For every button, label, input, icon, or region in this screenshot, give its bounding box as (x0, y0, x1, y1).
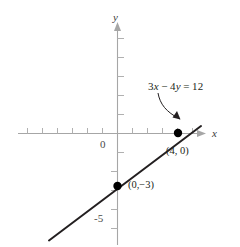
equation-var-y: y (176, 80, 181, 92)
equation-var-x: x (154, 80, 159, 92)
graph-figure: y x 0 -5 (4, 0) (0,−3) 3x − 4y = 12 (0, 0, 240, 247)
plotted-line (49, 126, 201, 241)
point-label-x-intercept: (4, 0) (166, 146, 189, 157)
equation-minus: − (161, 80, 167, 92)
equation-constant: 12 (192, 80, 203, 92)
y-tick-label-neg5: -5 (94, 213, 103, 224)
annotation-leader-arrow (158, 93, 181, 120)
equation-equals: = (183, 80, 189, 92)
y-axis-label: y (113, 12, 118, 23)
x-axis-label: x (212, 128, 217, 139)
origin-label: 0 (100, 139, 106, 150)
equation-label: 3x − 4y = 12 (148, 81, 203, 92)
x-axis-arrowhead (197, 130, 206, 137)
point-y-intercept (113, 182, 121, 190)
point-x-intercept (174, 129, 182, 137)
point-label-y-intercept: (0,−3) (128, 180, 154, 191)
y-axis-arrowhead (114, 22, 121, 31)
coordinate-plane-svg (0, 0, 240, 247)
x-axis-ticks (28, 128, 193, 134)
